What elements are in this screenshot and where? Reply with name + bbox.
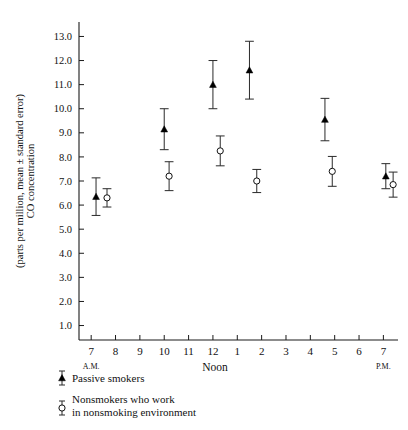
legend-label-passive-smokers: Passive smokers <box>72 372 144 384</box>
marker-filled-triangle <box>246 67 253 73</box>
chart-canvas: 1.02.03.04.05.06.07.08.09.010.011.012.01… <box>0 0 408 430</box>
y-axis-title-line-1: CO concentration <box>25 143 36 218</box>
x-axis-tick-label: 10 <box>159 345 171 357</box>
x-axis-tick-label: 12 <box>207 345 218 357</box>
x-axis: 7891011121234567A.M.P.M. <box>79 335 398 371</box>
y-axis-tick-label: 9.0 <box>59 127 72 138</box>
marker-open-circle <box>166 173 172 179</box>
x-axis-tick-label: 5 <box>332 345 338 357</box>
data-point <box>216 136 225 166</box>
data-point <box>165 162 174 191</box>
chart-legend: Passive smokersNonsmokers who workin non… <box>59 371 196 418</box>
x-axis-tick-label: 6 <box>356 345 362 357</box>
data-point <box>381 164 390 189</box>
series-2-nonsmokers <box>103 136 398 207</box>
y-axis-tick-label: 13.0 <box>54 31 72 42</box>
legend-label-nonsmokers-line-2: in nonsmoking environment <box>72 406 196 418</box>
x-axis-tick-label: 1 <box>235 345 241 357</box>
y-axis-tick-label: 12.0 <box>54 55 72 66</box>
x-axis-tick-label: 7 <box>88 345 94 357</box>
y-axis-tick-label: 8.0 <box>59 152 72 163</box>
x-axis-pm-label: P.M. <box>376 362 391 371</box>
legend-marker-filled-triangle <box>59 375 66 381</box>
y-axis-tick-label: 7.0 <box>59 176 72 187</box>
data-point <box>245 41 254 99</box>
marker-filled-triangle <box>93 193 100 199</box>
data-point <box>103 189 112 207</box>
data-series-group <box>92 41 398 215</box>
data-point <box>252 169 261 192</box>
marker-filled-triangle <box>210 81 217 87</box>
x-axis-tick-label: 2 <box>259 345 265 357</box>
x-axis-tick-label: 9 <box>137 345 143 357</box>
marker-filled-triangle <box>161 126 168 132</box>
x-axis-title: Noon <box>202 361 228 373</box>
y-axis-tick-label: 3.0 <box>59 272 72 283</box>
co-concentration-chart: 1.02.03.04.05.06.07.08.09.010.011.012.01… <box>0 0 408 430</box>
data-point <box>160 109 169 150</box>
series-1-passive-smokers <box>92 41 391 215</box>
y-axis-tick-label: 1.0 <box>59 320 72 331</box>
x-axis-tick-label: 8 <box>113 345 119 357</box>
legend-entry-passive-smokers: Passive smokers <box>59 371 145 385</box>
y-axis: 1.02.03.04.05.06.07.08.09.010.011.012.01… <box>54 22 84 340</box>
marker-open-circle <box>254 178 260 184</box>
legend-entry-nonsmokers: Nonsmokers who workin nonsmoking environ… <box>59 393 196 418</box>
marker-open-circle <box>104 195 110 201</box>
marker-open-circle <box>329 168 335 174</box>
marker-filled-triangle <box>322 116 329 122</box>
x-axis-tick-label: 7 <box>381 345 387 357</box>
y-axis-title: CO concentration(parts per million, mean… <box>14 94 36 268</box>
x-axis-tick-label: 3 <box>283 345 289 357</box>
x-axis-title-label: Noon <box>202 361 228 373</box>
x-axis-am-label: A.M. <box>83 362 100 371</box>
marker-open-circle <box>390 182 396 188</box>
y-axis-tick-label: 5.0 <box>59 224 72 235</box>
marker-open-circle <box>217 148 223 154</box>
data-point <box>321 98 330 140</box>
data-point <box>389 172 398 197</box>
y-axis-tick-label: 11.0 <box>54 79 72 90</box>
data-point <box>92 178 101 216</box>
y-axis-tick-label: 2.0 <box>59 296 72 307</box>
legend-label-nonsmokers-line-1: Nonsmokers who work <box>72 393 175 405</box>
x-axis-tick-label: 4 <box>308 345 314 357</box>
y-axis-title-line-2: (parts per million, mean ± standard erro… <box>14 94 26 268</box>
x-axis-tick-label: 11 <box>183 345 194 357</box>
y-axis-tick-label: 10.0 <box>54 103 72 114</box>
marker-filled-triangle <box>382 173 389 179</box>
data-point <box>328 156 337 186</box>
y-axis-tick-label: 4.0 <box>59 248 72 259</box>
legend-marker-open-circle <box>59 405 65 411</box>
data-point <box>209 61 218 109</box>
y-axis-tick-label: 6.0 <box>59 200 72 211</box>
